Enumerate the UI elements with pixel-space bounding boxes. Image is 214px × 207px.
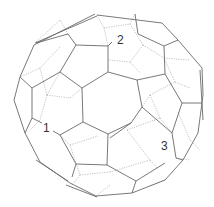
visible-edge (108, 123, 131, 134)
visible-edge (82, 88, 83, 122)
hidden-edge (127, 118, 160, 130)
visible-edge (132, 180, 165, 193)
visible-edge (164, 46, 165, 74)
visible-edge (66, 185, 97, 197)
hidden-edge (160, 118, 172, 133)
visible-edge (172, 133, 176, 158)
visible-edge (83, 122, 108, 134)
truncated-icosahedron-wireframe (0, 0, 214, 207)
visible-edge (60, 135, 76, 164)
visible-edge (76, 164, 107, 165)
hidden-edge (97, 15, 104, 28)
visible-edge (183, 133, 198, 160)
visible-edge (137, 74, 165, 80)
visible-edge (72, 164, 76, 177)
hidden-edge (142, 95, 150, 107)
visible-edge (34, 14, 95, 45)
visible-edge (70, 183, 96, 196)
visible-edge (138, 34, 164, 46)
visible-edge (164, 40, 178, 46)
visible-edge (137, 80, 142, 107)
vertex-label-2: 2 (117, 34, 124, 46)
hidden-edge (150, 95, 160, 118)
hidden-edge (104, 28, 108, 46)
hidden-edge (40, 95, 47, 120)
visible-edge (157, 163, 165, 168)
hidden-edge (150, 160, 157, 168)
hidden-edge (70, 88, 82, 98)
hidden-edge (164, 58, 175, 82)
visible-edge (136, 168, 157, 181)
visible-edge (165, 160, 183, 180)
visible-edge (20, 77, 32, 88)
visible-edge (172, 103, 182, 133)
visible-edges (14, 14, 203, 197)
visible-edge (97, 15, 162, 23)
visible-edge (162, 23, 178, 40)
visible-edge (14, 100, 25, 133)
visible-edge (108, 72, 137, 80)
visible-edge (178, 40, 202, 68)
visible-edge (36, 160, 68, 181)
visible-edge (202, 68, 203, 95)
hidden-edge (72, 175, 80, 185)
visible-edge (135, 14, 138, 34)
visible-edge (35, 16, 97, 43)
visible-edge (82, 72, 108, 88)
hidden-edge (130, 45, 143, 62)
visible-edge (20, 45, 34, 77)
visible-edge (68, 34, 76, 45)
hidden-edge (164, 58, 190, 60)
hidden-edge (175, 82, 190, 88)
hidden-edge (70, 145, 80, 175)
visible-edge (107, 134, 108, 165)
visible-edge (131, 107, 142, 123)
hidden-edge (143, 45, 164, 58)
visible-edge (60, 122, 83, 135)
hidden-edge (130, 62, 140, 73)
vertex-label-1: 1 (43, 122, 50, 134)
visible-edge (96, 193, 132, 196)
diagram-canvas: 2 1 3 (0, 0, 214, 207)
hidden-edge (104, 24, 130, 28)
visible-edge (25, 133, 40, 162)
hidden-edge (178, 112, 190, 140)
visible-edge (25, 118, 32, 133)
visible-edge (14, 77, 20, 100)
visible-edge (76, 45, 108, 46)
hidden-edge (96, 185, 110, 196)
hidden-edges (20, 14, 200, 196)
visible-edge (110, 123, 131, 138)
hidden-edge (130, 24, 143, 45)
hidden-edge (108, 60, 130, 62)
visible-edge (107, 165, 136, 181)
visible-edge (60, 72, 82, 88)
hidden-edge (80, 172, 110, 175)
hidden-edge (70, 136, 98, 145)
hidden-edge (40, 47, 60, 68)
visible-edge (165, 74, 182, 103)
hidden-edge (127, 130, 150, 160)
hidden-edge (47, 95, 70, 98)
visible-edge (53, 131, 60, 135)
visible-edge (60, 45, 76, 72)
vertex-label-3: 3 (161, 140, 168, 152)
visible-edge (108, 42, 112, 46)
